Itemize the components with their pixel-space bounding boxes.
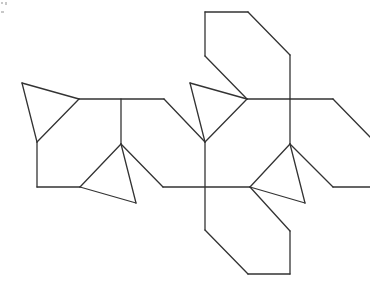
edge (22, 83, 37, 142)
edge (205, 230, 248, 274)
edge (250, 187, 305, 203)
edge (190, 83, 205, 142)
polyhedron-net-diagram (0, 0, 370, 281)
edge (290, 144, 333, 187)
edge (248, 12, 290, 55)
edge (121, 144, 136, 203)
net-edges (22, 12, 370, 274)
edge (22, 83, 79, 99)
edge (290, 144, 305, 203)
edge (80, 187, 136, 203)
edge (333, 99, 370, 137)
edge (121, 144, 163, 187)
edge (164, 99, 205, 142)
edge (205, 99, 247, 142)
edge (80, 144, 121, 187)
edge (250, 187, 290, 231)
edge (250, 144, 290, 187)
edge (37, 99, 79, 142)
